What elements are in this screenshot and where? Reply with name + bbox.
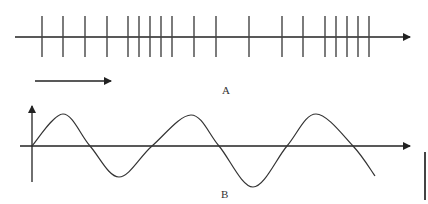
part-b-wave-graph: B [20,106,425,200]
sine-wave-curve [32,114,375,187]
wave-diagram: A B [0,0,428,204]
part-a-compression-diagram: A [15,16,410,96]
part-b-label: B [221,188,228,200]
part-a-label: A [222,84,230,96]
